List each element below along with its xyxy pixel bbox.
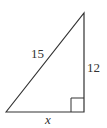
hypotenuse-label: 15: [31, 46, 44, 61]
vertical-leg-label: 12: [87, 60, 100, 75]
triangle-diagram: 15 12 x: [0, 0, 107, 128]
triangle: [6, 13, 84, 112]
horizontal-leg-label: x: [44, 112, 51, 127]
right-angle-marker: [71, 98, 84, 112]
